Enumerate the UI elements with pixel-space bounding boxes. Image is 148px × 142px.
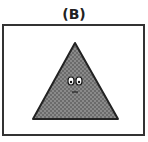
triangle-character-icon — [0, 0, 148, 142]
